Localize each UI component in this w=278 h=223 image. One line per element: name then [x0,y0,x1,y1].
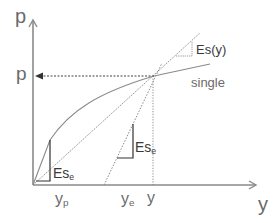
elastic-slope-main: Es [135,139,151,155]
secant-slope-triangle [176,41,192,56]
p-level-label: p [16,64,27,83]
secant-slope-label: Es(y) [196,43,226,56]
elastic-slope-label: Ese [135,140,156,156]
yp-label: yp [55,191,69,208]
yp-sub: p [63,197,69,208]
x-axis-label: y [258,194,268,214]
origin-slope-sub: e [69,172,74,182]
curve-name-label: single [191,76,225,89]
yp-main: y [55,190,63,207]
ye-sub: e [129,197,135,208]
y-axis [29,20,37,185]
diagram-graphics [0,0,278,223]
origin-slope-main: Es [53,165,69,181]
ye-label: ye [121,191,135,208]
y-point-label: y [147,190,155,206]
secant-line [33,33,200,185]
diagram-canvas: p y p Es(y) single Ese Ese yp ye y [0,0,278,223]
origin-slope-label: Ese [53,166,74,182]
x-axis [33,181,256,189]
ye-main: y [121,190,129,207]
y-axis-label: p [15,6,26,26]
p-projection-arrow [35,73,154,80]
elastic-slope-sub: e [151,146,156,156]
